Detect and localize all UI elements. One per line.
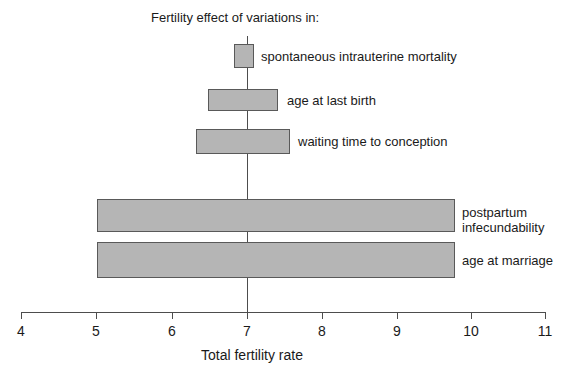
- x-axis-tick-label-6: 6: [168, 323, 176, 339]
- bar-label-postpartum-infecundability: postpartum infecundability: [462, 205, 544, 235]
- x-axis-tick-label-5: 5: [92, 323, 100, 339]
- reference-line-segment-6: [247, 278, 248, 312]
- reference-line-segment-2: [247, 67, 248, 90]
- x-axis-tick-8: [322, 312, 323, 319]
- bar-label-age-at-marriage: age at marriage: [462, 253, 553, 268]
- bar-postpartum-infecundability[interactable]: [97, 199, 455, 232]
- x-axis-tick-label-10: 10: [463, 323, 479, 339]
- x-axis-tick-11: [545, 312, 546, 319]
- tornado-chart: Fertility effect of variations in: spont…: [0, 0, 579, 378]
- reference-line-segment-5: [247, 232, 248, 242]
- x-axis-tick-label-4: 4: [17, 323, 25, 339]
- x-axis-tick-5: [96, 312, 97, 319]
- x-axis-line: [21, 312, 546, 313]
- x-axis-tick-7: [247, 312, 248, 319]
- x-axis-tick-10: [471, 312, 472, 319]
- bar-label-spontaneous-intrauterine-mortality: spontaneous intrauterine mortality: [261, 49, 457, 64]
- bar-waiting-time-to-conception[interactable]: [196, 129, 290, 154]
- bar-label-waiting-time-to-conception: waiting time to conception: [298, 134, 448, 149]
- x-axis-tick-label-7: 7: [243, 323, 251, 339]
- chart-title: Fertility effect of variations in:: [151, 10, 319, 26]
- x-axis-tick-6: [172, 312, 173, 319]
- reference-line-segment-3: [247, 110, 248, 130]
- x-axis-tick-label-9: 9: [393, 323, 401, 339]
- bar-age-at-last-birth[interactable]: [208, 89, 278, 111]
- x-axis-tick-label-11: 11: [538, 323, 553, 339]
- reference-line-segment-4: [247, 153, 248, 199]
- x-axis-tick-4: [21, 312, 22, 319]
- x-axis-title: Total fertility rate: [201, 347, 303, 363]
- x-axis-tick-label-8: 8: [318, 323, 326, 339]
- bar-age-at-marriage[interactable]: [97, 242, 455, 278]
- bar-spontaneous-intrauterine-mortality[interactable]: [234, 44, 254, 68]
- bar-label-age-at-last-birth: age at last birth: [287, 93, 376, 108]
- x-axis-tick-9: [397, 312, 398, 319]
